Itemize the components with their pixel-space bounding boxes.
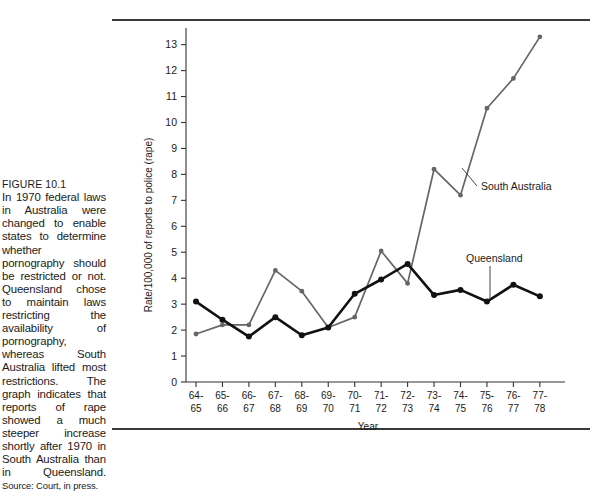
y-tick-label: 13 [165,38,177,50]
data-point [219,317,225,323]
x-tick-label: 69- [321,390,335,401]
x-tick-label: 71- [374,390,388,401]
x-tick-label: 66- [242,390,256,401]
y-tick-label: 3 [171,298,177,310]
x-tick-label: 72- [400,390,414,401]
y-tick-label: 2 [171,324,177,336]
data-point [325,325,331,331]
x-tick-label: 77 [508,403,520,414]
x-tick-label: 74- [453,390,467,401]
data-point [378,277,384,283]
data-point [405,261,411,267]
figure-source-text: Source: Court, in press. [2,480,106,492]
x-tick-label: 66 [217,403,229,414]
x-tick-label: 71 [349,403,361,414]
y-tick-label: 8 [171,168,177,180]
data-point [220,323,225,328]
x-tick-label: 74 [428,403,440,414]
x-tick-label: 73 [402,403,414,414]
y-tick-label: 5 [171,246,177,258]
data-point [537,34,542,39]
x-tick-label: 76- [506,390,520,401]
series-label-south-australia: South Australia [481,180,552,192]
data-point [511,76,516,81]
x-tick-label: 72 [376,403,388,414]
data-point [405,281,410,286]
x-tick-label: 68 [270,403,282,414]
data-point [484,299,490,305]
x-tick-label: 76 [481,403,493,414]
data-point [379,249,384,254]
y-tick-label: 7 [171,194,177,206]
data-point [299,289,304,294]
data-point [431,292,437,298]
data-point [352,315,357,320]
x-tick-label: 65- [215,390,229,401]
x-tick-label: 75- [480,390,494,401]
x-tick-label: 73- [427,390,441,401]
y-tick-label: 1 [171,350,177,362]
x-axis-title: Year [358,421,379,432]
y-tick-label: 10 [165,116,177,128]
x-tick-label: 75 [455,403,467,414]
y-tick-label: 6 [171,220,177,232]
series-label-queensland: Queensland [466,252,523,264]
data-point [510,282,516,288]
data-point [458,287,464,293]
y-tick-label: 9 [171,142,177,154]
x-tick-label: 67 [243,403,255,414]
y-tick-label: 4 [171,272,177,284]
data-point [458,193,463,198]
x-tick-label: 67- [268,390,282,401]
data-point [247,323,252,328]
data-point [246,334,252,340]
x-tick-label: 77- [533,390,547,401]
data-point [299,332,305,338]
data-point [537,293,543,299]
data-point [352,291,358,297]
data-point [432,167,437,172]
x-tick-label: 78 [534,403,546,414]
data-point [194,332,199,337]
y-tick-label: 12 [165,64,177,76]
y-tick-label: 0 [171,376,177,388]
x-tick-label: 68- [295,390,309,401]
data-point [272,314,278,320]
y-tick-label: 11 [166,90,177,102]
data-point [485,106,490,111]
data-point [273,268,278,273]
x-tick-label: 65 [190,403,202,414]
y-axis-title: Rate/100,000 of reports to police (rape) [143,138,154,313]
data-point [193,299,199,305]
x-tick-label: 70 [323,403,335,414]
x-tick-label: 64- [189,390,203,401]
x-tick-label: 69 [296,403,308,414]
x-tick-label: 70- [347,390,361,401]
